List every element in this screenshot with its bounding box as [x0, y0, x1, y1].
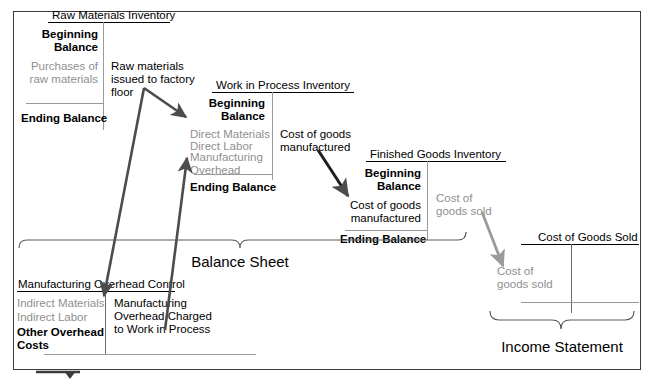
raw-materials-title-rule — [48, 22, 170, 23]
manufacturing-overhead-bottom-rule — [44, 354, 256, 355]
cost-of-goods-sold-title: Cost of Goods Sold — [538, 231, 638, 243]
cost-of-goods-sold-entry: Cost of goods sold — [497, 265, 553, 291]
cost-flow-diagram: Raw Materials Inventory Beginning Balanc… — [0, 0, 650, 385]
finished-goods-beginning-balance: Beginning Balance — [336, 167, 421, 193]
raw-materials-beginning-balance: Beginning Balance — [4, 28, 98, 54]
finished-goods-title-rule — [366, 161, 506, 162]
work-in-process-cost-of-goods-manufactured: Cost of goods manufactured — [280, 128, 351, 154]
balance-sheet-label: Balance Sheet — [160, 253, 320, 270]
finished-goods-title: Finished Goods Inventory — [370, 148, 501, 160]
income-statement-label: Income Statement — [482, 338, 642, 355]
finished-goods-cost-of-goods-sold: Cost of goods sold — [436, 192, 492, 218]
cost-of-goods-sold-title-rule — [521, 244, 639, 245]
raw-materials-title: Raw Materials Inventory — [52, 9, 175, 21]
finished-goods-ending-balance: Ending Balance — [340, 233, 426, 246]
cost-of-goods-sold-bottom-rule — [521, 302, 639, 303]
raw-materials-issued-label: Raw materials issued to factory floor — [111, 60, 195, 99]
finished-goods-balance-rule — [345, 230, 427, 231]
work-in-process-title-rule — [212, 92, 354, 93]
raw-materials-purchases: Purchases of raw materials — [4, 60, 98, 86]
work-in-process-ending-balance: Ending Balance — [190, 181, 276, 194]
finished-goods-divider — [427, 161, 428, 240]
manufacturing-overhead-control-title-rule — [17, 291, 175, 292]
work-in-process-balance-rule — [194, 174, 272, 175]
work-in-process-title: Work in Process Inventory — [216, 79, 350, 91]
manufacturing-overhead-indirect-materials: Indirect Materials — [17, 297, 105, 310]
manufacturing-overhead-other-costs: Other Overhead Costs — [17, 326, 104, 352]
diagram-frame — [13, 11, 641, 370]
work-in-process-divider — [272, 92, 273, 180]
manufacturing-overhead-control-divider — [105, 291, 106, 355]
manufacturing-overhead-charged-to-wip: Manufacturing Overhead Charged to Work i… — [114, 297, 212, 336]
manufacturing-overhead-indirect-labor: Indirect Labor — [17, 311, 87, 324]
arrow-overhead-closeout — [36, 371, 80, 379]
work-in-process-beginning-balance: Beginning Balance — [180, 97, 265, 123]
manufacturing-overhead-control-title: Manufacturing Overhead Control — [18, 278, 185, 290]
raw-materials-ending-balance: Ending Balance — [21, 112, 107, 125]
raw-materials-balance-rule — [26, 103, 103, 104]
finished-goods-cost-of-goods-manufactured: Cost of goods manufactured — [330, 199, 421, 225]
